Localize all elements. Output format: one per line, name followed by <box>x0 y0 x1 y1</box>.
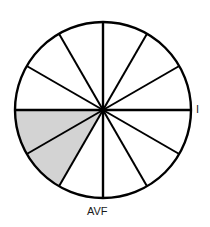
radial-spoke <box>103 110 147 186</box>
axis-label-lead-avf: AVF <box>87 206 108 217</box>
radial-spoke <box>103 110 179 154</box>
radial-spoke <box>103 66 179 110</box>
axis-wheel-diagram <box>0 0 210 227</box>
axis-label-lead-i: I <box>196 104 199 115</box>
radial-spoke <box>103 34 147 110</box>
radial-spoke <box>59 34 103 110</box>
shaded-sectors-group <box>15 110 103 186</box>
radial-spoke <box>27 66 103 110</box>
figure-root: I AVF <box>0 0 210 227</box>
